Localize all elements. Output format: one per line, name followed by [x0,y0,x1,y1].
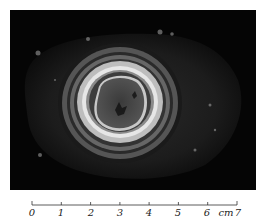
scale-tick-7: 7 [235,208,241,218]
scale-tick-6: 6 [204,208,210,218]
agate-illustration [10,10,256,190]
scale-tick-3: 3 [117,208,123,218]
scale-tick-4: 4 [146,208,152,218]
scale-tick-2: 2 [88,208,94,218]
scale-unit-label: cm [218,208,233,218]
scale-tick-1: 1 [58,208,64,218]
scale-tick-0: 0 [29,208,35,218]
agate-cross-section-photo [10,10,256,190]
scale-tick-5: 5 [175,208,181,218]
